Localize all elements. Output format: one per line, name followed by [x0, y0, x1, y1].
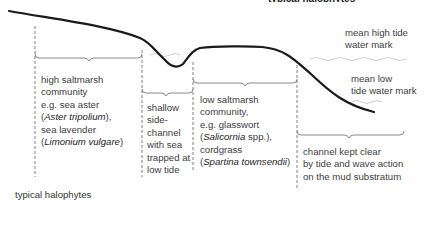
zone-line: channel kept clear: [303, 146, 403, 158]
zone-line: shallow: [147, 102, 190, 114]
zone-line: (Aster tripolium),: [41, 111, 123, 123]
zone-line: low tide: [147, 164, 190, 176]
zone-line: (Spartina townsendii): [200, 156, 290, 168]
zone-line: sea lavender: [41, 124, 123, 136]
zone-side-channel-text: shallow side- channel with sea trapped a…: [147, 102, 190, 176]
zone-line: trapped at: [147, 152, 190, 164]
bracket-low-saltmarsh: [193, 79, 297, 86]
zone-line: with sea: [147, 139, 190, 151]
species-name: Aster tripolium: [44, 111, 105, 122]
zone-line: on the mud substratum: [303, 171, 403, 183]
bracket-side-channel: [142, 89, 193, 96]
species-name: Spartina townsendii: [203, 156, 287, 167]
bracket-main-channel: [297, 131, 404, 138]
zone-line: e.g. glasswort: [200, 119, 290, 131]
zone-line: low saltmarsh: [200, 94, 290, 106]
bracket-high-saltmarsh: [35, 54, 142, 61]
species-name: Salicornia: [203, 131, 245, 142]
zone-line: high saltmarsh: [41, 74, 123, 86]
low-tide-label: mean low tide water mark: [351, 73, 417, 98]
zone-main-channel-text: channel kept clear by tide and wave acti…: [303, 146, 403, 183]
zone-line: e.g. sea aster: [41, 99, 123, 111]
high-tide-label-line1: mean high tide: [345, 27, 408, 39]
zone-line: (Limonium vulgare): [41, 136, 123, 148]
zone-line: community,: [200, 106, 290, 118]
zone-line: by tide and wave action: [303, 158, 403, 170]
zone-line: side-: [147, 114, 190, 126]
zone-high-saltmarsh-text: high saltmarsh community e.g. sea aster …: [41, 74, 123, 148]
high-tide-label: mean high tide water mark: [345, 27, 408, 52]
low-tide-label-line1: mean low: [351, 73, 417, 85]
zone-line: community: [41, 86, 123, 98]
zone-line: channel: [147, 127, 190, 139]
low-tide-water-line: [352, 101, 382, 104]
bottom-caption: typical halophytes: [15, 189, 91, 201]
zone-low-saltmarsh-text: low saltmarsh community, e.g. glasswort …: [200, 94, 290, 168]
low-tide-label-line2: tide water mark: [351, 85, 417, 97]
species-name: Limonium vulgare: [44, 136, 120, 147]
zone-line: (Salicornia spp.),: [200, 131, 290, 143]
high-tide-label-line2: water mark: [345, 39, 408, 51]
zone-line: cordgrass: [200, 144, 290, 156]
